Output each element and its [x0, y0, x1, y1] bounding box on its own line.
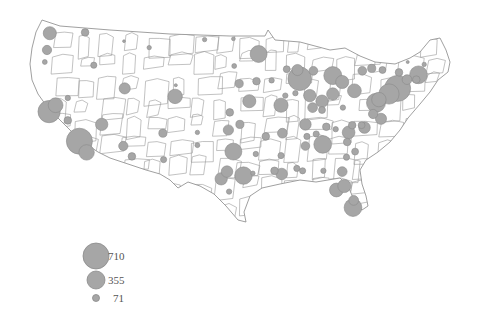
map-bubble — [358, 66, 367, 75]
map-bubble — [262, 133, 270, 141]
map-bubble — [251, 171, 255, 175]
map-bubble — [161, 157, 167, 163]
map-bubble — [308, 103, 318, 113]
region-border — [427, 199, 439, 220]
map-bubble — [43, 27, 56, 40]
map-bubble — [147, 45, 151, 49]
legend-label-71: 71 — [113, 292, 124, 304]
map-bubble — [402, 75, 412, 85]
map-bubble — [278, 128, 288, 138]
map-bubble — [413, 76, 421, 84]
map-bubble — [300, 119, 312, 131]
map-bubble — [323, 123, 331, 131]
map-bubble — [168, 89, 182, 103]
map-bubble — [232, 37, 236, 41]
map-bubble — [48, 98, 63, 113]
map-bubble — [349, 196, 359, 206]
region-border — [56, 180, 72, 200]
map-bubble — [195, 143, 200, 148]
map-bubble — [174, 84, 177, 87]
map-bubble — [96, 118, 108, 130]
region-border — [125, 182, 142, 199]
region-border — [283, 200, 304, 216]
map-bubble — [283, 66, 290, 73]
region-border — [55, 163, 77, 181]
map-bubble — [301, 142, 310, 151]
region-border — [100, 159, 115, 184]
map-bubble — [368, 109, 377, 118]
map-bubble — [278, 153, 284, 159]
region-border — [402, 162, 417, 183]
region-border — [167, 202, 185, 222]
map-bubble — [343, 154, 349, 160]
region-border — [191, 199, 210, 219]
region-border — [399, 137, 416, 151]
map-bubble — [159, 129, 167, 137]
map-bubble — [236, 120, 244, 128]
region-border — [75, 197, 101, 224]
legend-circle-710 — [83, 243, 109, 269]
region-border — [263, 200, 286, 224]
region-border — [397, 180, 422, 200]
map-bubble — [336, 75, 349, 88]
map-bubble — [79, 145, 94, 160]
map-bubble — [243, 95, 256, 108]
map-bubble — [293, 91, 298, 96]
map-bubble — [337, 167, 347, 177]
map-bubble — [309, 66, 318, 75]
map-bubble — [42, 60, 47, 65]
map-bubble — [202, 37, 206, 41]
map-bubble — [91, 62, 97, 68]
region-border — [419, 182, 445, 191]
map-bubble — [321, 168, 326, 173]
map-bubble — [119, 141, 128, 150]
region-border — [98, 181, 110, 202]
map-bubble — [313, 131, 319, 137]
map-bubble — [292, 64, 303, 75]
map-bubble — [348, 121, 356, 129]
map-bubble — [274, 98, 288, 112]
map-bubble — [123, 40, 126, 43]
map-bubble — [65, 95, 70, 100]
map-bubble — [372, 92, 386, 106]
map-bubble — [368, 64, 376, 72]
region-border — [375, 202, 388, 212]
map-bubble — [64, 117, 72, 125]
map-bubble — [283, 93, 288, 98]
region-border — [128, 202, 144, 219]
map-bubble — [226, 109, 234, 117]
region-border — [78, 184, 95, 201]
region-border — [379, 179, 399, 198]
map-bubble — [235, 167, 252, 184]
us-map: 710 355 71 — [0, 0, 497, 324]
map-bubble — [253, 77, 261, 85]
map-bubble — [81, 29, 89, 37]
map-bubble — [422, 62, 426, 66]
map-bubble — [226, 189, 231, 194]
map-bubble — [304, 89, 316, 101]
map-bubble — [232, 64, 237, 69]
region-border — [104, 201, 119, 218]
map-bubble — [195, 130, 199, 134]
map-bubble — [395, 69, 403, 77]
map-bubble — [358, 122, 365, 129]
map-bubble — [343, 138, 351, 146]
map-bubble — [348, 84, 362, 98]
map-bubble — [119, 83, 130, 94]
region-border — [147, 202, 161, 218]
region-border — [311, 201, 337, 224]
map-bubble — [221, 166, 233, 178]
map-bubble — [316, 95, 328, 107]
region-border — [334, 32, 349, 47]
map-bubble — [300, 168, 306, 174]
region-border — [147, 176, 165, 187]
region-border — [378, 163, 398, 180]
map-bubble — [327, 88, 339, 100]
map-bubble — [294, 165, 300, 171]
map-bubble — [406, 60, 409, 63]
map-bubble — [352, 148, 359, 155]
map-bubble — [128, 153, 136, 161]
legend-label-710: 710 — [108, 250, 125, 262]
region-border — [378, 33, 405, 55]
region-border — [56, 200, 68, 216]
